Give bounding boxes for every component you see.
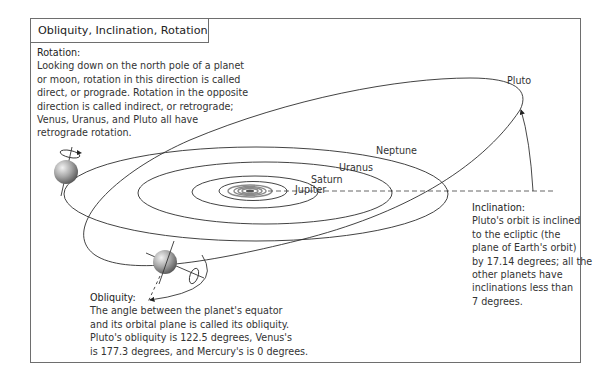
neptune-label: Neptune bbox=[376, 145, 417, 156]
inclination-arrow bbox=[521, 110, 533, 191]
inclination-line: to the ecliptic (the bbox=[472, 228, 592, 241]
rotation-heading: Rotation: bbox=[37, 46, 248, 59]
inclination-heading: Inclination: bbox=[472, 201, 592, 214]
rotation-line: direction is called indirect, or retrogr… bbox=[37, 100, 248, 113]
jupiter-label: Jupiter bbox=[294, 184, 326, 195]
sun bbox=[246, 190, 254, 193]
inner-orbits bbox=[228, 185, 272, 197]
rotation-line: or moon, rotation in this direction is c… bbox=[37, 73, 248, 86]
inclination-line: 7 degrees. bbox=[472, 295, 592, 308]
inclination-line: plane of Earth's orbit) bbox=[472, 241, 592, 254]
obliquity-explanation: Obliquity: The angle between the planet'… bbox=[90, 291, 308, 358]
rotation-planet bbox=[54, 147, 82, 196]
inclination-line: inclinations less than bbox=[472, 281, 592, 294]
planet-sphere bbox=[54, 160, 78, 184]
pluto-label: Pluto bbox=[507, 75, 531, 86]
rotation-line: Venus, Uranus, and Pluto all have bbox=[37, 113, 248, 126]
rotation-line: retrograde rotation. bbox=[37, 126, 248, 139]
obliquity-heading: Obliquity: bbox=[90, 291, 308, 304]
rotation-line: direct, or prograde. Rotation in the opp… bbox=[37, 86, 248, 99]
inclination-explanation: Inclination: Pluto's orbit is inclined t… bbox=[472, 201, 592, 308]
obliquity-line: and its orbital plane is called its obli… bbox=[90, 318, 308, 331]
planet-sphere bbox=[153, 250, 177, 274]
inclination-line: by 17.14 degrees; all the bbox=[472, 255, 592, 268]
obliquity-line: The angle between the planet's equator bbox=[90, 304, 308, 317]
uranus-label: Uranus bbox=[339, 162, 373, 173]
inclination-line: Pluto's orbit is inclined bbox=[472, 214, 592, 227]
rotation-line: Looking down on the north pole of a plan… bbox=[37, 59, 248, 72]
obliquity-line: Pluto's obliquity is 122.5 degrees, Venu… bbox=[90, 331, 308, 344]
rotation-explanation: Rotation: Looking down on the north pole… bbox=[37, 46, 248, 140]
inclination-line: other planets have bbox=[472, 268, 592, 281]
diagram-title: Obliquity, Inclination, Rotation bbox=[30, 18, 209, 43]
rotation-direction-loop bbox=[188, 267, 201, 285]
obliquity-line: is 177.3 degrees, and Mercury's is 0 deg… bbox=[90, 345, 308, 358]
